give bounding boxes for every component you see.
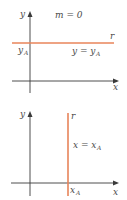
line-label: r: [71, 111, 76, 121]
x-axis-label: x: [113, 82, 118, 92]
equation-label: x = x A: [73, 140, 102, 151]
intercept-label: x A: [70, 185, 81, 196]
svg-text:A: A: [23, 49, 29, 56]
y-axis-arrow-icon: [28, 11, 33, 17]
intercept-label: y A: [17, 45, 29, 56]
equation-label: y = y A: [71, 46, 101, 57]
line-label: r: [110, 31, 115, 41]
panel-vertical-line: y x r x A x = x A: [11, 109, 119, 197]
svg-text:A: A: [75, 189, 81, 196]
panel-horizontal-line: y x m = 0 r y A y = y A: [12, 9, 119, 93]
y-axis-label: y: [19, 9, 26, 19]
slope-label: m = 0: [55, 10, 83, 20]
svg-text:y = y: y = y: [71, 46, 96, 56]
x-axis-arrow-icon: [113, 181, 119, 186]
y-axis-arrow-icon: [28, 111, 33, 117]
x-axis-label: x: [113, 187, 118, 197]
y-axis-label: y: [19, 109, 26, 119]
svg-text:A: A: [96, 144, 102, 151]
svg-text:x: x: [70, 185, 75, 195]
svg-text:y: y: [17, 45, 24, 55]
svg-text:x = x: x = x: [73, 140, 96, 150]
diagram: y x m = 0 r y A y = y A y x r x A x = x …: [0, 0, 127, 200]
svg-text:A: A: [95, 50, 101, 57]
